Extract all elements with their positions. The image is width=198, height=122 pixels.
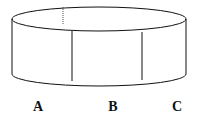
label-a: A — [33, 99, 43, 115]
label-c: C — [172, 99, 182, 115]
cylinder-bottom-arc — [12, 74, 186, 86]
cylinder-top-ellipse — [12, 7, 186, 31]
cylinder-diagram — [0, 0, 198, 122]
label-b: B — [108, 99, 117, 115]
